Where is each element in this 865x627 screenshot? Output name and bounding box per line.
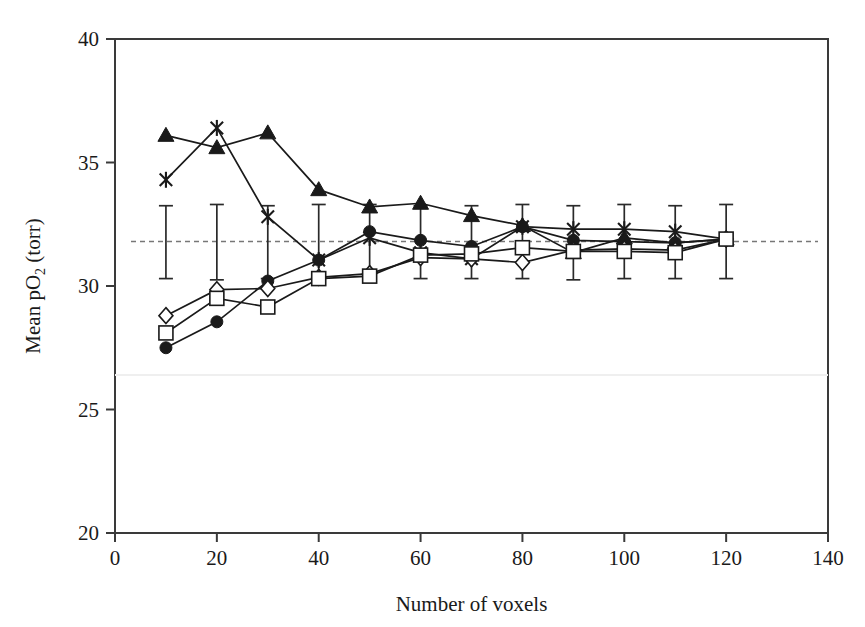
- marker-square-open: [566, 244, 580, 258]
- x-tick-label: 80: [512, 546, 533, 570]
- y-axis-title-part1: Mean pO: [21, 275, 45, 354]
- y-tick-label: 30: [78, 274, 99, 298]
- marker-square-open: [515, 241, 529, 255]
- chart-container: 2025303540020406080100120140Number of vo…: [0, 0, 865, 627]
- x-axis-title: Number of voxels: [396, 592, 548, 616]
- x-tick-label: 40: [308, 546, 329, 570]
- y-axis-title-part2: (torr): [21, 218, 45, 268]
- series-line-open-square: [166, 239, 726, 333]
- marker-square-open: [261, 300, 275, 314]
- x-tick-label: 20: [206, 546, 227, 570]
- y-tick-label: 35: [78, 151, 99, 175]
- series-markers-cross-x: [160, 120, 733, 268]
- marker-diamond-open: [515, 255, 529, 271]
- y-tick-label: 25: [78, 398, 99, 422]
- marker-circle-filled: [364, 226, 376, 238]
- marker-circle-filled: [211, 316, 223, 328]
- series-markers-filled-triangle: [158, 125, 734, 259]
- series-line-filled-triangle: [166, 133, 726, 253]
- series-line-filled-circle: [166, 227, 726, 348]
- marker-circle-filled: [516, 221, 528, 233]
- series-markers-open-square: [159, 232, 733, 340]
- series-markers-open-diamond: [159, 231, 733, 324]
- y-tick-label: 40: [78, 27, 99, 51]
- marker-triangle-filled: [158, 127, 174, 141]
- marker-triangle-filled: [413, 195, 429, 209]
- marker-circle-filled: [313, 254, 325, 266]
- x-tick-label: 140: [812, 546, 844, 570]
- marker-circle-filled: [160, 342, 172, 354]
- y-axis-title-subscript: 2: [33, 268, 48, 275]
- marker-square-open: [159, 326, 173, 340]
- plot-frame: [115, 39, 828, 533]
- x-tick-label: 100: [609, 546, 641, 570]
- y-axis-title-group: Mean pO2 (torr): [21, 218, 48, 353]
- marker-square-open: [617, 244, 631, 258]
- x-tick-label: 120: [710, 546, 742, 570]
- marker-square-open: [414, 248, 428, 262]
- marker-square-open: [210, 291, 224, 305]
- marker-square-open: [668, 246, 682, 260]
- marker-circle-filled: [415, 234, 427, 246]
- marker-diamond-open: [159, 308, 173, 324]
- y-axis-title: Mean pO2 (torr): [21, 218, 48, 353]
- marker-square-open: [719, 232, 733, 246]
- y-tick-label: 20: [78, 521, 99, 545]
- marker-triangle-filled: [260, 125, 276, 139]
- marker-square-open: [465, 247, 479, 261]
- x-tick-label: 0: [110, 546, 121, 570]
- chart-svg: 2025303540020406080100120140Number of vo…: [0, 0, 865, 627]
- marker-square-open: [312, 272, 326, 286]
- x-tick-label: 60: [410, 546, 431, 570]
- marker-square-open: [363, 269, 377, 283]
